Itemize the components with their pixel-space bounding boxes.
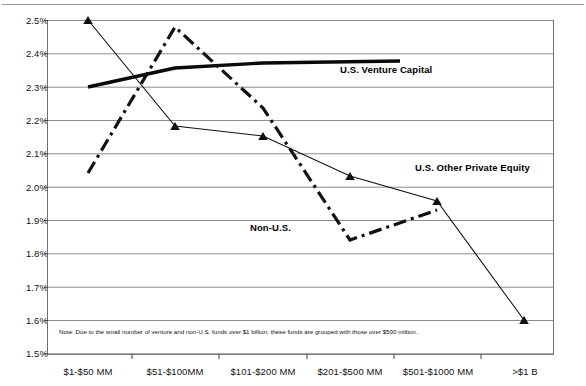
chart-plot-area (0, 0, 586, 386)
series-line-us-venture-capital (88, 61, 400, 87)
y-gridlines (48, 21, 553, 354)
chart-container: 2.5% 2.4% 2.3% 2.2% 2.1% 2.0% 1.9% 1.8% … (0, 0, 586, 386)
series-line-us-other-private-equity (88, 20, 524, 320)
